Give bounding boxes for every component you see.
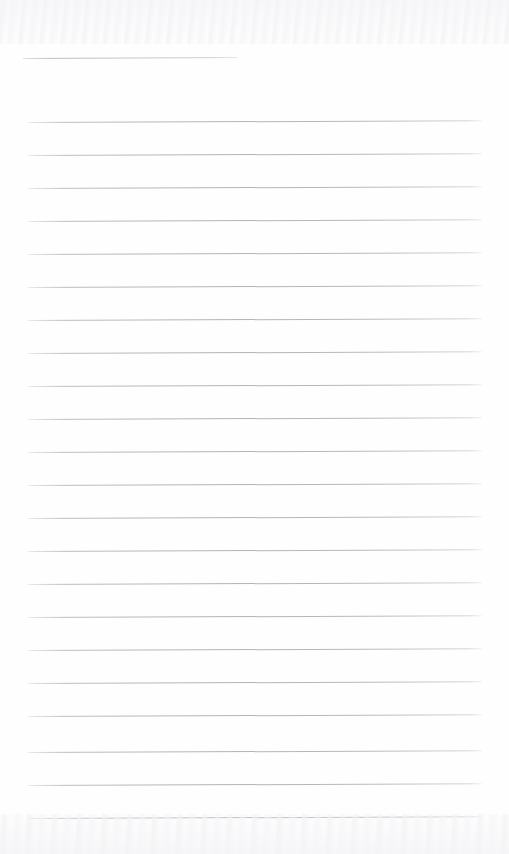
ruled-line [28,186,482,189]
ruled-line [28,648,482,651]
ruled-line [28,285,482,288]
ruled-line [28,483,482,486]
scan-artifact-bottom [0,814,509,854]
ruled-line [28,450,482,453]
ruled-line [28,750,482,753]
header-rule [23,57,238,59]
ruled-line [28,582,482,585]
ruled-line [28,384,482,387]
lined-paper-page [0,0,509,854]
ruled-line [28,252,482,255]
ruled-line [28,549,482,552]
ruled-line [28,219,482,222]
scan-artifact-top [0,0,509,44]
ruled-line [28,417,482,420]
ruled-line [28,681,482,684]
ruled-line [28,516,482,519]
ruled-line [28,714,482,717]
ruled-line [28,615,482,618]
ruled-line [28,318,482,321]
ruled-line [28,351,482,354]
ruled-line [28,816,482,819]
ruled-line [28,120,482,123]
ruled-line [28,153,482,156]
ruled-line [28,783,482,786]
